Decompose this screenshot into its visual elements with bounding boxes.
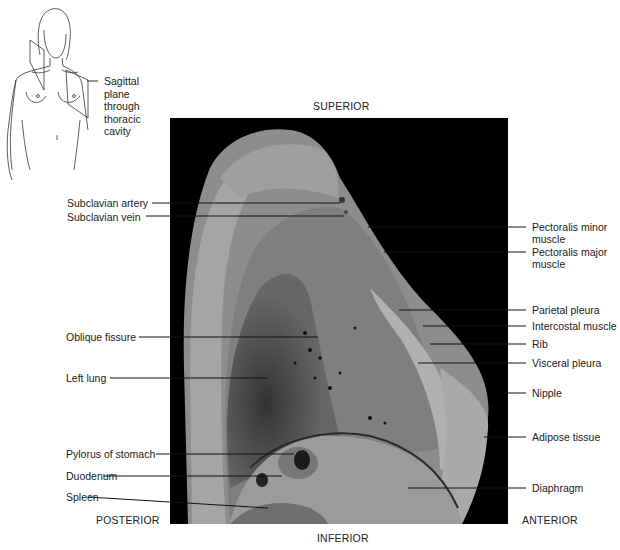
label-subclavian-vein: Subclavian vein xyxy=(67,211,141,223)
label-oblique-fissure: Oblique fissure xyxy=(66,331,136,343)
label-pectoralis-major-muscle: Pectoralis major muscle xyxy=(532,246,607,270)
label-parietal-pleura: Parietal pleura xyxy=(532,304,600,316)
label-spleen: Spleen xyxy=(66,491,99,503)
label-duodenum: Duodenum xyxy=(66,470,117,482)
label-subclavian-artery: Subclavian artery xyxy=(67,197,148,209)
label-rib: Rib xyxy=(532,338,548,350)
label-adipose-tissue: Adipose tissue xyxy=(532,431,600,443)
label-left-lung: Left lung xyxy=(66,372,106,384)
leader-lines xyxy=(0,0,620,550)
label-pectoralis-minor-muscle: Pectoralis minor muscle xyxy=(532,221,607,245)
label-diaphragm: Diaphragm xyxy=(532,482,583,494)
label-intercostal-muscle: Intercostal muscle xyxy=(532,320,617,332)
label-visceral-pleura: Visceral pleura xyxy=(532,357,601,369)
label-pylorus-of-stomach: Pylorus of stomach xyxy=(66,448,155,460)
label-nipple: Nipple xyxy=(532,387,562,399)
